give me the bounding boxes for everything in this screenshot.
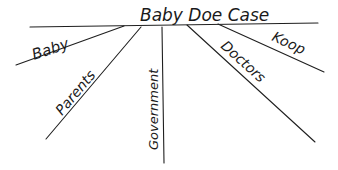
tree-diagram: Baby Doe Case Baby Parents Government Do…	[0, 0, 338, 170]
branch-label-parents: Parents	[52, 67, 98, 118]
branch-line-government	[162, 27, 164, 163]
branch-label-government: Government	[146, 68, 161, 150]
branch-label-koop: Koop	[270, 28, 308, 57]
branch-label-doctors: Doctors	[218, 37, 269, 85]
branch-label-baby: Baby	[29, 34, 72, 64]
diagram-title: Baby Doe Case	[140, 5, 269, 25]
